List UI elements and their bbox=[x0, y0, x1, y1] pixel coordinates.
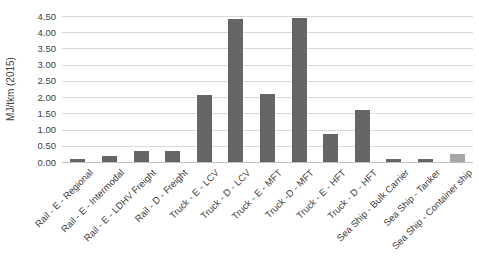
bar bbox=[197, 95, 212, 162]
bar bbox=[165, 151, 180, 162]
x-tick-label: Rail - E - Regional bbox=[32, 167, 94, 229]
gridline bbox=[62, 65, 473, 66]
bar-chart: MJ/tkm (2015) 0.000.501.001.502.002.503.… bbox=[0, 0, 479, 271]
y-tick-label: 3.00 bbox=[6, 59, 56, 70]
bar bbox=[450, 154, 465, 162]
y-tick-label: 4.00 bbox=[6, 27, 56, 38]
y-tick-label: 2.50 bbox=[6, 75, 56, 86]
y-tick-label: 0.00 bbox=[6, 157, 56, 168]
y-tick-label: 2.00 bbox=[6, 92, 56, 103]
bar bbox=[418, 159, 433, 162]
bar bbox=[323, 134, 338, 162]
y-tick-label: 0.50 bbox=[6, 140, 56, 151]
gridline bbox=[62, 81, 473, 82]
bar bbox=[292, 18, 307, 162]
bar bbox=[102, 156, 117, 162]
gridline bbox=[62, 32, 473, 33]
bar bbox=[228, 19, 243, 162]
y-tick-label: 1.50 bbox=[6, 108, 56, 119]
y-tick-label: 4.50 bbox=[6, 11, 56, 22]
bar bbox=[260, 94, 275, 162]
bar bbox=[386, 159, 401, 162]
gridline bbox=[62, 16, 473, 17]
bar bbox=[70, 159, 85, 162]
y-tick-label: 3.50 bbox=[6, 43, 56, 54]
bar bbox=[134, 151, 149, 162]
gridline bbox=[62, 48, 473, 49]
bar bbox=[355, 110, 370, 162]
x-tick-label: Sea Ship - Tanker bbox=[381, 167, 442, 228]
x-axis-line bbox=[62, 162, 473, 163]
y-tick-label: 1.00 bbox=[6, 124, 56, 135]
